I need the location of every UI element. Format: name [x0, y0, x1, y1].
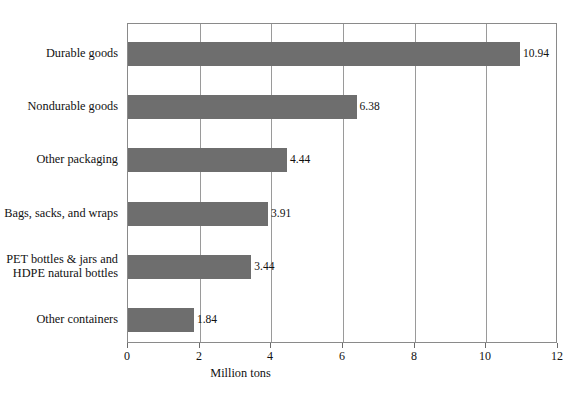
x-tick-label: 4 [255, 349, 285, 363]
gridline-4 [271, 24, 272, 342]
x-tick-label: 6 [327, 349, 357, 363]
gridline-8 [415, 24, 416, 342]
bar-value-label: 3.44 [254, 260, 274, 272]
category-label: Durable goods [0, 46, 122, 60]
category-label: Other containers [0, 312, 122, 326]
category-label-line: HDPE natural bottles [0, 266, 118, 280]
category-label: PET bottles & jars andHDPE natural bottl… [0, 252, 122, 280]
gridline-6 [343, 24, 344, 342]
x-tick-mark [270, 343, 271, 348]
bar [128, 95, 357, 119]
gridline-10 [486, 24, 487, 342]
category-label-line: Other packaging [0, 152, 118, 166]
category-labels-group: Durable goodsNondurable goodsOther packa… [0, 0, 122, 393]
x-axis-title: Million tons [0, 366, 577, 380]
x-tick-mark [485, 343, 486, 348]
bar-value-label: 3.91 [271, 207, 291, 219]
bar [128, 255, 251, 279]
bar [128, 42, 520, 66]
category-label-line: Bags, sacks, and wraps [0, 206, 118, 220]
category-label: Nondurable goods [0, 99, 122, 113]
bar [128, 202, 268, 226]
x-tick-label: 2 [184, 349, 214, 363]
category-label-line: Other containers [0, 312, 118, 326]
x-tick-mark [414, 343, 415, 348]
plot-area [127, 23, 557, 343]
gridline-2 [200, 24, 201, 342]
bar-value-label: 4.44 [290, 153, 310, 165]
bar [128, 148, 287, 172]
bar-chart: 10.946.384.443.913.441.84 Durable goodsN… [0, 0, 577, 393]
x-tick-label: 0 [112, 349, 142, 363]
category-label: Other packaging [0, 152, 122, 166]
category-label: Bags, sacks, and wraps [0, 206, 122, 220]
bar-value-label: 6.38 [360, 100, 380, 112]
x-tick-mark [127, 343, 128, 348]
x-tick-mark [342, 343, 343, 348]
bar-value-label: 10.94 [523, 47, 549, 59]
category-label-line: Nondurable goods [0, 99, 118, 113]
category-label-line: PET bottles & jars and [0, 252, 118, 266]
x-tick-label: 8 [399, 349, 429, 363]
x-axis-title-text: Million tons [210, 366, 270, 380]
category-label-line: Durable goods [0, 46, 118, 60]
x-tick-label: 12 [542, 349, 572, 363]
x-tick-mark [557, 343, 558, 348]
x-tick-label: 10 [470, 349, 500, 363]
x-tick-mark [199, 343, 200, 348]
bar-value-label: 1.84 [197, 313, 217, 325]
bar [128, 308, 194, 332]
